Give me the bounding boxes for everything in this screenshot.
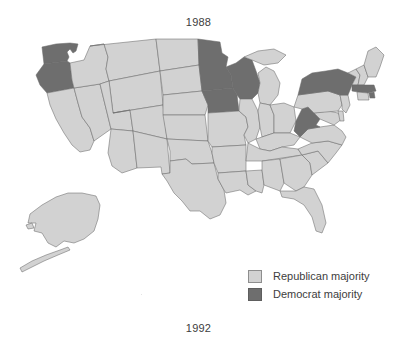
us-choropleth-map (12, 33, 387, 295)
state-AK-island-1 (26, 223, 34, 229)
state-ME (364, 47, 384, 77)
legend-item-democrat: Democrat majority (248, 285, 394, 303)
state-AK-aleutians (20, 247, 70, 272)
state-NE (163, 91, 208, 115)
state-AR (212, 145, 246, 173)
state-WA (42, 43, 78, 64)
figure-caption-top: 1988 (0, 16, 397, 28)
states-layer (20, 39, 384, 295)
legend-swatch-democrat-icon (248, 288, 262, 301)
state-NY (298, 69, 356, 95)
map-legend: Republican majority Democrat majority (248, 267, 394, 303)
map-svg (12, 33, 387, 295)
legend-label-democrat: Democrat majority (273, 288, 362, 300)
state-OR (36, 61, 74, 93)
legend-swatch-republican-icon (248, 270, 262, 283)
state-MA (352, 85, 376, 93)
legend-item-republican: Republican majority (248, 267, 394, 285)
figure-caption-bottom: 1992 (0, 322, 397, 334)
state-FL (280, 187, 326, 233)
state-MN (198, 39, 233, 91)
us-election-map-figure: 1988 (0, 0, 397, 343)
state-KS (163, 115, 208, 141)
state-OH (270, 103, 296, 133)
state-AK (28, 193, 100, 247)
state-CT (357, 92, 369, 100)
state-MO (208, 111, 248, 147)
state-AZ (108, 129, 137, 173)
state-RI (369, 92, 375, 98)
state-MI (258, 67, 280, 105)
legend-label-republican: Republican majority (273, 270, 370, 282)
state-IA (202, 88, 239, 113)
